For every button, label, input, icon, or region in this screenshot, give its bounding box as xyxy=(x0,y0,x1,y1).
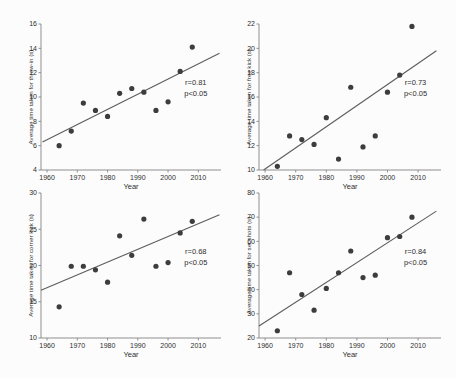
data-point xyxy=(81,264,86,269)
y-tick-label: 4 xyxy=(33,166,37,173)
x-tick-label: 1980 xyxy=(319,342,335,349)
x-tick-label: 1970 xyxy=(70,174,86,181)
correlation-annotation: r=0.84 xyxy=(405,247,426,256)
data-point xyxy=(324,286,329,291)
y-tick-label: 10 xyxy=(29,334,37,341)
y-tick-label: 80 xyxy=(247,189,255,196)
data-point xyxy=(117,91,122,96)
pvalue-annotation: p<0.05 xyxy=(184,89,207,98)
x-tick-label: 1980 xyxy=(319,174,335,181)
data-point xyxy=(178,69,183,74)
x-tick-label: 1960 xyxy=(39,342,55,349)
throw-in-chart: 46810121416196019701980199020002010Avera… xyxy=(0,0,228,189)
data-point xyxy=(409,215,414,220)
data-point xyxy=(105,280,110,285)
x-tick-label: 1970 xyxy=(288,342,304,349)
x-tick-label: 1990 xyxy=(130,342,146,349)
data-point xyxy=(311,308,316,313)
data-point xyxy=(299,137,304,142)
y-axis-title: Average time taken for corner kick (s) xyxy=(27,214,34,317)
data-point xyxy=(385,90,390,95)
x-tick-label: 1990 xyxy=(130,174,146,181)
x-tick-label: 1970 xyxy=(288,174,304,181)
data-point xyxy=(275,328,280,333)
data-point xyxy=(275,164,280,169)
x-tick-label: 1970 xyxy=(70,342,86,349)
data-point xyxy=(81,100,86,105)
x-tick-label: 2010 xyxy=(191,342,207,349)
data-point xyxy=(385,235,390,240)
correlation-annotation: r=0.81 xyxy=(185,78,206,87)
data-point xyxy=(190,45,195,50)
x-tick-label: 2000 xyxy=(160,174,176,181)
data-point xyxy=(299,292,304,297)
x-axis-title: Year xyxy=(342,182,358,189)
free-kick-chart: 10121416182022196019701980199020002010Av… xyxy=(228,0,456,189)
scatter-plot-grid: 46810121416196019701980199020002010Avera… xyxy=(0,0,456,378)
data-point xyxy=(287,133,292,138)
y-axis-title: Average time taken for throw-in (s) xyxy=(27,50,34,145)
data-point xyxy=(141,90,146,95)
x-tick-label: 1980 xyxy=(100,342,116,349)
data-point xyxy=(287,270,292,275)
x-tick-label: 1980 xyxy=(100,174,116,181)
y-tick-label: 30 xyxy=(29,189,37,196)
data-point xyxy=(153,108,158,113)
data-point xyxy=(311,142,316,147)
data-point xyxy=(409,24,414,29)
data-point xyxy=(117,233,122,238)
x-axis-title: Year xyxy=(123,182,139,189)
figure-canvas: 46810121416196019701980199020002010Avera… xyxy=(0,0,456,378)
data-point xyxy=(141,217,146,222)
set-shots-chart: 20304050607080196019701980199020002010Av… xyxy=(228,189,456,378)
data-point xyxy=(397,73,402,78)
x-tick-label: 2000 xyxy=(380,174,396,181)
y-tick-label: 10 xyxy=(247,166,255,173)
data-point xyxy=(178,230,183,235)
data-point xyxy=(397,234,402,239)
data-point xyxy=(373,273,378,278)
data-point xyxy=(360,144,365,149)
x-tick-label: 1960 xyxy=(257,174,273,181)
data-point xyxy=(336,270,341,275)
data-point xyxy=(57,143,62,148)
data-point xyxy=(69,128,74,133)
x-tick-label: 2000 xyxy=(160,342,176,349)
y-tick-label: 22 xyxy=(247,20,255,27)
data-point xyxy=(153,264,158,269)
y-axis-title: Average time taken for set shots (s) xyxy=(245,217,252,315)
data-point xyxy=(129,253,134,258)
x-tick-label: 1990 xyxy=(349,174,365,181)
data-point xyxy=(165,99,170,104)
x-tick-label: 1960 xyxy=(39,174,55,181)
data-point xyxy=(69,264,74,269)
trend-line xyxy=(259,211,436,326)
data-point xyxy=(57,304,62,309)
x-tick-label: 2010 xyxy=(191,174,207,181)
plot-set-shots: 20304050607080196019701980199020002010Av… xyxy=(228,189,456,378)
pvalue-annotation: p<0.05 xyxy=(184,258,207,267)
data-point xyxy=(373,133,378,138)
x-tick-label: 1960 xyxy=(257,342,273,349)
trend-line xyxy=(264,51,437,170)
data-point xyxy=(324,115,329,120)
correlation-annotation: r=0.68 xyxy=(185,247,206,256)
x-tick-label: 2000 xyxy=(380,342,396,349)
data-point xyxy=(165,260,170,265)
x-tick-label: 1990 xyxy=(349,342,365,349)
x-tick-label: 2010 xyxy=(410,174,426,181)
correlation-annotation: r=0.73 xyxy=(405,78,426,87)
data-point xyxy=(360,275,365,280)
y-axis-title: Average time taken for free kick (s) xyxy=(245,49,252,145)
x-axis-title: Year xyxy=(123,350,139,359)
data-point xyxy=(336,156,341,161)
plot-corner-kick: 1015202530196019701980199020002010Averag… xyxy=(0,189,228,378)
plot-throw-in: 46810121416196019701980199020002010Avera… xyxy=(0,0,228,189)
y-tick-label: 16 xyxy=(29,20,37,27)
data-point xyxy=(348,85,353,90)
x-axis-title: Year xyxy=(342,350,358,359)
data-point xyxy=(129,86,134,91)
data-point xyxy=(93,108,98,113)
y-tick-label: 20 xyxy=(247,334,255,341)
x-tick-label: 2010 xyxy=(410,342,426,349)
